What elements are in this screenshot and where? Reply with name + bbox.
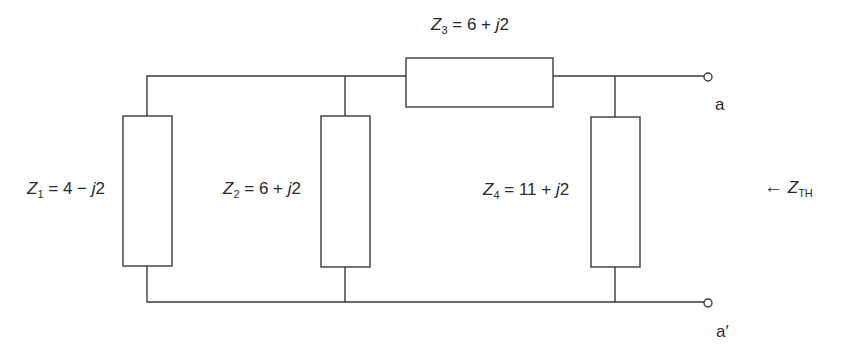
z1-impedance-box [123, 116, 172, 266]
terminal-a-label: a [715, 95, 724, 115]
z4-symbol: Z [483, 180, 493, 199]
z2-symbol: Z [223, 179, 233, 198]
z3-subscript: 3 [441, 24, 447, 36]
z1-label: Z1 = 4 − j2 [27, 179, 105, 200]
z3-impedance-box [406, 58, 553, 107]
z1-symbol: Z [27, 179, 37, 198]
z2-value: = 6 + [244, 179, 287, 198]
z3-value: = 6 + [452, 15, 495, 34]
z4-impedance-box [591, 117, 640, 267]
zth-subscript: TH [798, 187, 813, 199]
z3-imag-value: 2 [500, 15, 509, 34]
bottom-wire [147, 266, 704, 302]
top-wire-left [147, 76, 406, 116]
thevenin-label: ← ZTH [764, 176, 813, 199]
zth-symbol: Z [788, 178, 798, 197]
z3-symbol: Z [431, 15, 441, 34]
z1-value: = 4 − [48, 179, 91, 198]
terminal-a-node [704, 73, 712, 81]
z2-label: Z2 = 6 + j2 [223, 179, 301, 200]
circuit-wiring [0, 0, 852, 361]
z1-imag-value: 2 [96, 179, 105, 198]
z4-imag-value: 2 [560, 180, 569, 199]
z1-subscript: 1 [37, 188, 43, 200]
left-arrow-icon: ← [764, 176, 783, 197]
z4-subscript: 4 [493, 189, 499, 201]
z2-impedance-box [321, 116, 370, 267]
terminal-a-prime-label: a′ [716, 322, 729, 342]
terminal-a-prime-node [704, 299, 712, 307]
z2-imag-value: 2 [292, 179, 301, 198]
z3-label: Z3 = 6 + j2 [431, 15, 509, 36]
z4-value: = 11 + [504, 180, 556, 199]
z4-label: Z4 = 11 + j2 [483, 180, 569, 201]
z2-subscript: 2 [233, 188, 239, 200]
